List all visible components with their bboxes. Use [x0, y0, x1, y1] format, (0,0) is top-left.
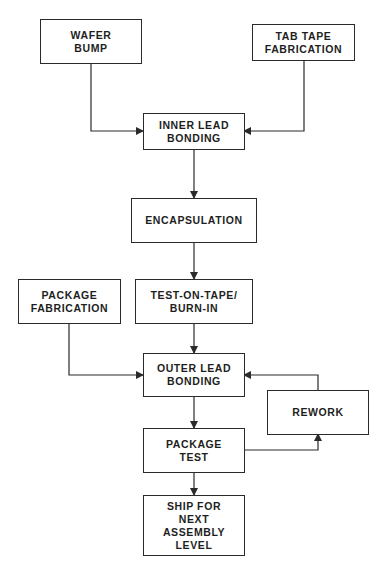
node-label: PACKAGE FABRICATION — [31, 289, 109, 315]
node-wafer-bump: WAFER BUMP — [40, 19, 142, 64]
node-label: INNER LEAD BONDING — [159, 119, 229, 145]
node-label: TAB TAPE FABRICATION — [265, 30, 343, 56]
edge-rework-to-outer — [244, 375, 318, 390]
node-test-on-tape-burn-in: TEST-ON-TAPE/ BURN-IN — [135, 279, 253, 324]
edge-pkgfab-to-outer — [69, 323, 143, 375]
edge-wafer-to-inner — [91, 63, 143, 131]
node-package-fabrication: PACKAGE FABRICATION — [18, 279, 121, 324]
node-ship-for-next-assembly-level: SHIP FOR NEXT ASSEMBLY LEVEL — [143, 495, 245, 556]
node-label: ENCAPSULATION — [145, 214, 242, 227]
node-label: TEST-ON-TAPE/ BURN-IN — [151, 289, 238, 315]
node-outer-lead-bonding: OUTER LEAD BONDING — [143, 353, 245, 397]
edge-pkgtest-to-rework — [244, 434, 318, 450]
node-rework: REWORK — [267, 390, 369, 435]
node-label: SHIP FOR NEXT ASSEMBLY LEVEL — [163, 500, 225, 552]
node-label: WAFER BUMP — [71, 29, 112, 55]
node-inner-lead-bonding: INNER LEAD BONDING — [143, 113, 245, 150]
edge-tab-to-inner — [244, 60, 304, 131]
flowchart-canvas: WAFER BUMP TAB TAPE FABRICATION INNER LE… — [0, 0, 384, 570]
node-label: OUTER LEAD BONDING — [157, 362, 231, 388]
node-encapsulation: ENCAPSULATION — [131, 198, 257, 243]
node-package-test: PACKAGE TEST — [143, 428, 245, 473]
node-label: PACKAGE TEST — [166, 438, 222, 464]
node-tab-tape-fabrication: TAB TAPE FABRICATION — [252, 24, 355, 61]
node-label: REWORK — [292, 406, 343, 419]
